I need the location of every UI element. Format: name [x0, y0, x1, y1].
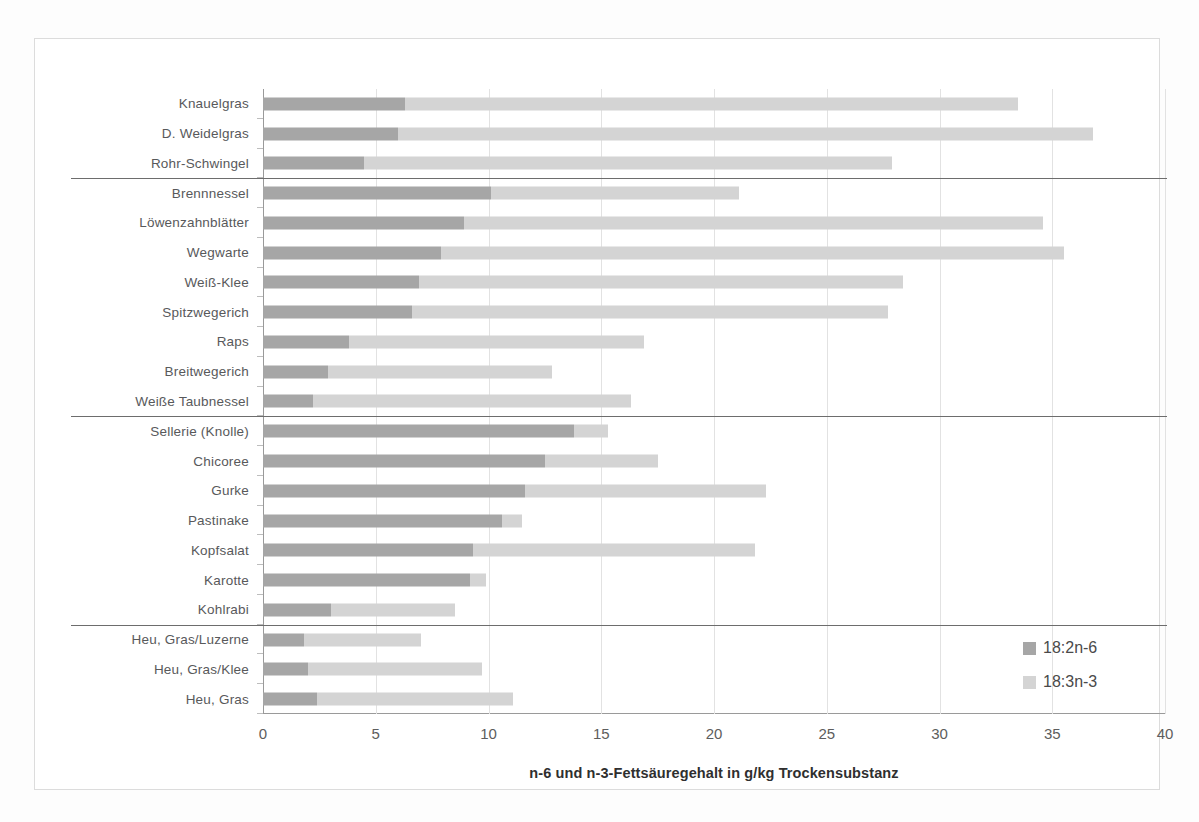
gridline — [1165, 89, 1166, 714]
bar-segment-n3 — [491, 187, 739, 200]
bar-segment-n6 — [263, 157, 364, 170]
legend-item: 18:3n-3 — [1023, 673, 1153, 691]
bar-segment-n3 — [398, 127, 1093, 140]
bar-segment-n6 — [263, 246, 441, 259]
category-label: Kohlrabi — [35, 595, 249, 625]
stacked-bar — [263, 455, 658, 468]
bar-segment-n3 — [308, 663, 482, 676]
bar-segment-n6 — [263, 306, 412, 319]
category-label: Raps — [35, 327, 249, 357]
x-tick-label: 35 — [1044, 725, 1061, 742]
bar-row: Kopfsalat — [35, 535, 1165, 565]
category-label: Breitwegerich — [35, 357, 249, 387]
group-separator — [71, 416, 1167, 417]
bar-row: Pastinake — [35, 506, 1165, 536]
bar-segment-n3 — [470, 574, 486, 587]
bar-segment-n3 — [331, 603, 455, 616]
bar-row: Heu, Gras/Klee — [35, 654, 1165, 684]
bar-segment-n3 — [502, 514, 522, 527]
x-tick-label: 25 — [818, 725, 835, 742]
stacked-bar — [263, 693, 513, 706]
category-label: Heu, Gras/Klee — [35, 654, 249, 684]
bar-segment-n3 — [525, 484, 766, 497]
category-label: Gurke — [35, 476, 249, 506]
stacked-bar — [263, 246, 1064, 259]
stacked-bar — [263, 514, 522, 527]
category-label: Heu, Gras/Luzerne — [35, 625, 249, 655]
bar-segment-n6 — [263, 425, 574, 438]
bar-segment-n6 — [263, 455, 545, 468]
bar-segment-n6 — [263, 97, 405, 110]
x-axis-tick-labels: 0510152025303540 — [263, 725, 1165, 747]
bar-segment-n6 — [263, 127, 398, 140]
bar-segment-n3 — [464, 216, 1044, 229]
bar-segment-n3 — [473, 544, 755, 557]
bar-row: Löwenzahnblätter — [35, 208, 1165, 238]
bar-segment-n6 — [263, 514, 502, 527]
plot-area: KnauelgrasD. WeidelgrasRohr-SchwingelBre… — [263, 89, 1165, 714]
stacked-bar — [263, 157, 892, 170]
x-tick-label: 15 — [593, 725, 610, 742]
bar-segment-n6 — [263, 484, 525, 497]
x-tick-label: 10 — [480, 725, 497, 742]
category-label: Weiß-Klee — [35, 268, 249, 298]
category-label: Löwenzahnblätter — [35, 208, 249, 238]
category-label: D. Weidelgras — [35, 119, 249, 149]
bar-segment-n6 — [263, 603, 331, 616]
legend-swatch-n6-icon — [1023, 642, 1036, 655]
bar-segment-n6 — [263, 693, 317, 706]
legend-item: 18:2n-6 — [1023, 639, 1153, 657]
bar-segment-n3 — [304, 633, 421, 646]
category-label: Spitzwegerich — [35, 297, 249, 327]
category-label: Brennnessel — [35, 178, 249, 208]
bar-row: Wegwarte — [35, 238, 1165, 268]
bar-segment-n3 — [545, 455, 658, 468]
bar-segment-n6 — [263, 395, 313, 408]
bar-row: Karotte — [35, 565, 1165, 595]
bar-segment-n3 — [313, 395, 631, 408]
bar-row: Breitwegerich — [35, 357, 1165, 387]
bar-segment-n3 — [317, 693, 513, 706]
bar-segment-n3 — [405, 97, 1018, 110]
stacked-bar — [263, 365, 552, 378]
bar-row: Raps — [35, 327, 1165, 357]
bar-row: Gurke — [35, 476, 1165, 506]
bar-row: Heu, Gras/Luzerne — [35, 625, 1165, 655]
bar-segment-n3 — [412, 306, 888, 319]
stacked-bar — [263, 216, 1043, 229]
stacked-bar — [263, 484, 766, 497]
bar-row: Weiß-Klee — [35, 268, 1165, 298]
x-tick-label: 30 — [931, 725, 948, 742]
bar-segment-n3 — [364, 157, 892, 170]
stacked-bar — [263, 276, 903, 289]
chart-legend: 18:2n-6 18:3n-3 — [1023, 639, 1153, 707]
category-label: Karotte — [35, 565, 249, 595]
stacked-bar — [263, 187, 739, 200]
x-axis-title: n-6 und n-3-Fettsäuregehalt in g/kg Troc… — [263, 765, 1165, 781]
category-label: Weiße Taubnessel — [35, 387, 249, 417]
group-separator — [71, 625, 1167, 626]
stacked-bar — [263, 335, 644, 348]
bar-row: D. Weidelgras — [35, 119, 1165, 149]
bar-row: Chicoree — [35, 446, 1165, 476]
stacked-bar — [263, 97, 1018, 110]
stacked-bar — [263, 633, 421, 646]
stacked-bar — [263, 306, 888, 319]
category-label: Chicoree — [35, 446, 249, 476]
bar-segment-n6 — [263, 663, 308, 676]
group-separator — [71, 178, 1167, 179]
stacked-bar — [263, 603, 455, 616]
x-tick-label: 0 — [259, 725, 267, 742]
category-label: Pastinake — [35, 506, 249, 536]
bar-segment-n6 — [263, 633, 304, 646]
bar-segment-n6 — [263, 365, 328, 378]
bar-segment-n3 — [328, 365, 551, 378]
stacked-bar — [263, 544, 755, 557]
bar-segment-n3 — [441, 246, 1063, 259]
bar-row: Rohr-Schwingel — [35, 149, 1165, 179]
bar-segment-n6 — [263, 276, 419, 289]
stacked-bar — [263, 663, 482, 676]
stacked-bar — [263, 574, 486, 587]
x-tick-label: 40 — [1157, 725, 1174, 742]
y-axis-tick — [257, 713, 263, 714]
